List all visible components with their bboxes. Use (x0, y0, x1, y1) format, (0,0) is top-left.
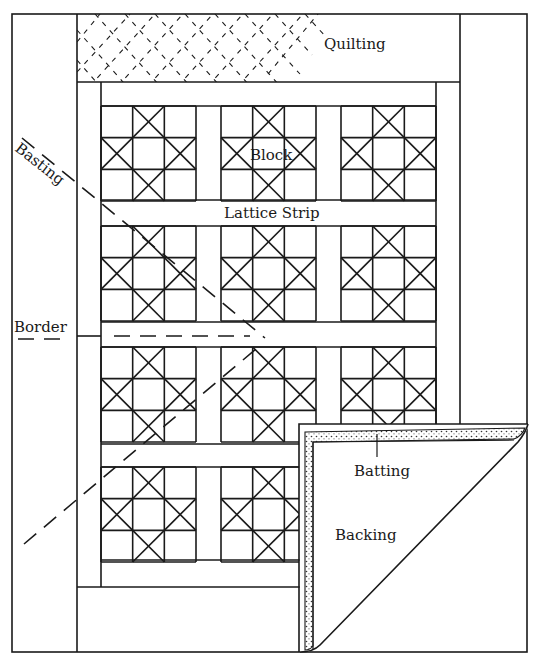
label-block: Block (250, 146, 293, 164)
label-backing: Backing (335, 526, 397, 544)
quilt-block (341, 106, 436, 201)
quilting-crosshatch (77, 14, 326, 92)
quilt-block (341, 226, 436, 321)
basting-lines (22, 138, 265, 544)
quilt-block (101, 347, 196, 442)
quilt-block (101, 226, 196, 321)
quilt-block (221, 226, 316, 321)
quilt-outer-frame (12, 14, 527, 652)
folded-corner (299, 424, 528, 652)
label-quilting: Quilting (324, 35, 386, 53)
quilt-diagram: Quilting Lattice Strip Block Basting Bor… (0, 0, 542, 666)
quilt-block (101, 106, 196, 201)
quilt-block (101, 467, 196, 562)
label-lattice-strip: Lattice Strip (224, 204, 320, 222)
label-batting: Batting (354, 462, 410, 480)
label-basting: Basting (12, 139, 69, 189)
label-border: Border (14, 318, 68, 336)
